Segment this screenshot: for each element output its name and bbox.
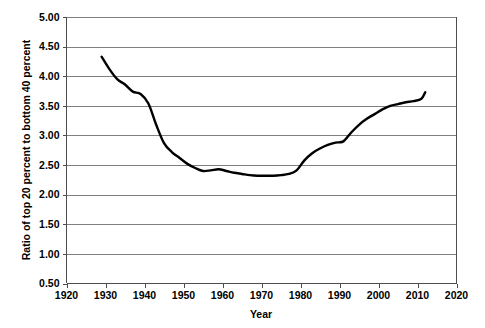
x-axis-tick-labels: 1920193019401950196019701980199020002010… <box>55 289 469 301</box>
x-tick-label: 1970 <box>250 289 274 301</box>
x-tick-label: 1980 <box>289 289 313 301</box>
y-tick-label: 4.00 <box>39 70 60 82</box>
y-tick-label: 5.00 <box>39 11 60 23</box>
x-tick-label: 1990 <box>328 289 352 301</box>
x-tick-label: 2010 <box>406 289 430 301</box>
y-axis-tick-labels: 0.501.001.502.002.503.003.504.004.505.00 <box>39 11 60 290</box>
chart-screenshot: 0.501.001.502.002.503.003.504.004.505.00… <box>0 0 485 328</box>
y-axis-tick-marks <box>63 18 67 285</box>
y-tick-label: 3.50 <box>39 100 60 112</box>
y-tick-label: 3.00 <box>39 129 60 141</box>
data-line-ratio-top20-bottom40 <box>102 57 426 176</box>
x-tick-label: 1930 <box>94 289 118 301</box>
x-tick-label: 1960 <box>211 289 235 301</box>
y-axis-title: Ratio of top 20 percent to bottom 40 per… <box>20 39 32 260</box>
gridlines <box>67 18 457 255</box>
x-tick-label: 1920 <box>55 289 79 301</box>
y-tick-label: 2.00 <box>39 188 60 200</box>
x-axis-title: Year <box>250 308 272 320</box>
x-tick-label: 2020 <box>445 289 469 301</box>
line-chart: 0.501.001.502.002.503.003.504.004.505.00… <box>0 0 485 328</box>
y-tick-label: 0.50 <box>39 277 60 289</box>
x-tick-label: 2000 <box>367 289 391 301</box>
y-tick-label: 2.50 <box>39 159 60 171</box>
y-tick-label: 1.00 <box>39 248 60 260</box>
x-axis-tick-marks <box>68 284 458 288</box>
y-tick-label: 1.50 <box>39 218 60 230</box>
x-tick-label: 1940 <box>133 289 157 301</box>
x-tick-label: 1950 <box>172 289 196 301</box>
y-tick-label: 4.50 <box>39 40 60 52</box>
